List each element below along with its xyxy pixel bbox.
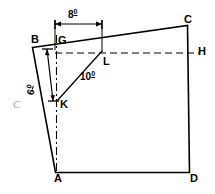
dimension-value-diagonal: 10 (80, 71, 91, 82)
vertex-label-g: G (58, 35, 67, 46)
vertex-label-b: B (31, 34, 39, 45)
dimension-arrow-left (55, 22, 61, 27)
figure-drawing-canvas (0, 0, 215, 194)
dimension-unit-top: 0 (74, 8, 78, 15)
dimension-unit-diagonal: 0 (91, 70, 95, 77)
geometry-figure: C B C D A G H K L 80 60 100 (0, 0, 215, 194)
dimension-arrow-top (45, 49, 50, 56)
vertex-label-h: H (198, 46, 206, 57)
dimension-label-diagonal: 100 (80, 70, 95, 82)
figure-marker: C (13, 99, 20, 110)
dimension-arrow-bottom (51, 95, 56, 101)
vertex-label-c: C (184, 14, 192, 25)
vertex-label-d: D (190, 173, 198, 184)
dimension-arrow-right (96, 22, 102, 27)
vertex-label-a: A (54, 173, 62, 184)
dimension-label-top: 80 (68, 8, 77, 20)
vertex-label-l: L (103, 56, 110, 67)
dimension-line-vertical (47, 49, 53, 101)
vertex-label-k: K (60, 99, 68, 110)
